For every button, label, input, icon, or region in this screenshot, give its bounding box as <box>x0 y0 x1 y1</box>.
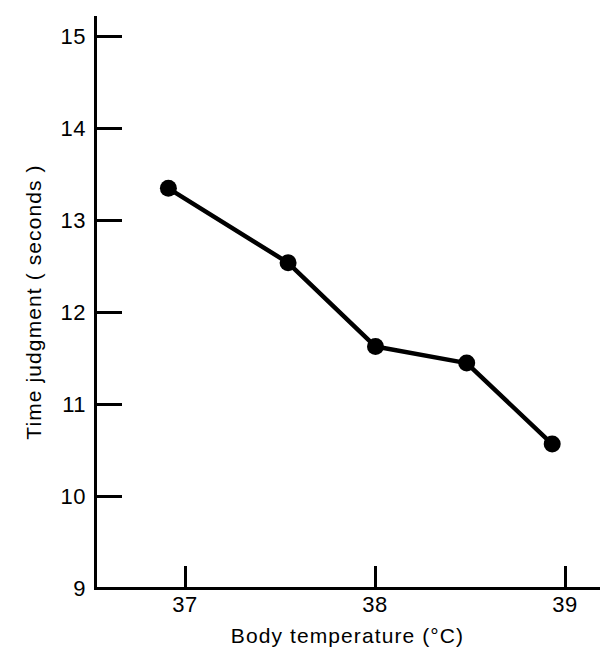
data-point-2 <box>280 254 297 271</box>
y-tick-marks <box>96 37 122 497</box>
data-point-5 <box>544 436 561 453</box>
chart-figure: 15 14 13 12 11 10 9 37 38 39 Time judgme… <box>0 0 609 657</box>
data-point-3 <box>367 338 384 355</box>
x-tick-label-38: 38 <box>345 592 405 618</box>
chart-canvas <box>0 0 609 657</box>
data-point-4 <box>458 355 475 372</box>
x-tick-label-39: 39 <box>535 592 595 618</box>
y-tick-label-15: 15 <box>34 24 86 50</box>
axis-spines <box>94 16 600 589</box>
y-tick-label-9: 9 <box>34 576 86 602</box>
x-axis-title: Body temperature (°C) <box>95 624 600 648</box>
x-tick-marks <box>186 566 566 587</box>
data-line-series-1 <box>168 188 552 444</box>
data-point-1 <box>160 180 177 197</box>
y-axis-title: Time judgment ( seconds ) <box>22 62 46 542</box>
x-tick-label-37: 37 <box>155 592 215 618</box>
